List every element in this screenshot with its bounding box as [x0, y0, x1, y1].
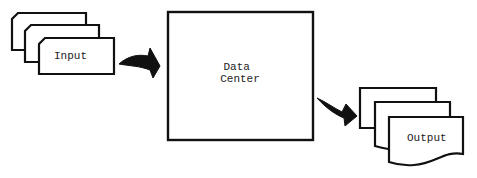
data-center-label: Data Center [220, 61, 260, 85]
output-label: Output [407, 132, 447, 144]
data-flow-diagram: Input Data Center Output [0, 0, 477, 178]
output-document-stack [360, 88, 463, 165]
curved-arrow-icon [119, 48, 160, 78]
input-document-stack [12, 13, 114, 74]
curved-arrow-icon [317, 98, 357, 126]
input-label: Input [54, 50, 87, 62]
